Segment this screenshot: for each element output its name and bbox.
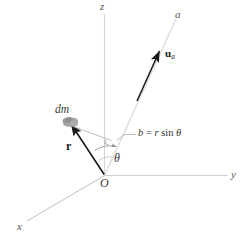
z-axis-label: z [100,1,104,12]
a-axis-label: a [175,9,181,20]
perpendicular-distance-label: b = r sin θ [138,128,181,139]
mass-element-blob [62,116,79,128]
theta-angle-arc [95,146,117,151]
origin-label: O [100,177,109,189]
unit-vector-arrow [137,51,160,101]
x-axis-line [27,176,105,222]
theta-symbol-in-equation: θ [176,127,181,138]
right-angle-marker [105,140,109,145]
diagram-canvas [0,0,249,239]
mass-element-label: dm [55,104,69,116]
position-vector-label: r [66,140,71,152]
sin-function: sin [161,127,173,138]
b-label-leader-line [117,135,136,141]
unit-vector-label: ua [165,48,175,61]
perpendicular-helper-line [73,127,112,141]
unit-vector-subscript: a [171,52,175,61]
y-axis-label: y [231,169,236,180]
x-axis-label: x [17,221,22,232]
moment-of-inertia-diagram: z y x a O dm r ua θ b = r sin θ [0,0,249,239]
theta-label: θ [114,152,120,164]
theta-inner-arc [99,157,113,161]
